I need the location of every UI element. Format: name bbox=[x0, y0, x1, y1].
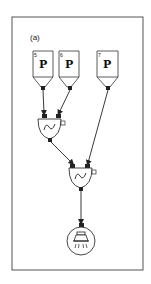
source-letter: P bbox=[39, 58, 47, 71]
mixer-handle bbox=[61, 121, 65, 125]
output-port[interactable] bbox=[68, 86, 72, 90]
diagram-canvas: (a) 5 P 6 P 7 P bbox=[0, 0, 151, 284]
light-output-node[interactable] bbox=[67, 227, 95, 255]
mixer-node-1[interactable] bbox=[38, 119, 65, 142]
source-letter: P bbox=[65, 58, 73, 71]
mixer-handle bbox=[92, 170, 96, 174]
input-port[interactable] bbox=[70, 164, 75, 168]
source-node-5[interactable]: 5 P bbox=[33, 51, 53, 90]
output-port[interactable] bbox=[48, 138, 52, 142]
connection-7-to-mixer-2 bbox=[88, 90, 108, 163]
panel-label: (a) bbox=[30, 33, 40, 42]
output-port[interactable] bbox=[106, 86, 110, 90]
connection-5-to-mixer-1 bbox=[43, 90, 44, 113]
source-node-7[interactable]: 7 P bbox=[97, 51, 118, 90]
input-port[interactable] bbox=[56, 114, 61, 118]
input-port[interactable] bbox=[42, 114, 47, 118]
source-node-6[interactable]: 6 P bbox=[59, 51, 79, 90]
source-number: 7 bbox=[98, 52, 101, 58]
mixer-node-2[interactable] bbox=[69, 168, 96, 191]
source-number: 6 bbox=[60, 52, 63, 58]
input-port[interactable] bbox=[79, 223, 84, 227]
output-port[interactable] bbox=[41, 86, 45, 90]
source-letter: P bbox=[103, 58, 111, 71]
output-port[interactable] bbox=[79, 187, 83, 191]
connection-6-to-mixer-1 bbox=[59, 90, 70, 113]
input-port[interactable] bbox=[85, 164, 90, 168]
source-number: 5 bbox=[34, 52, 37, 58]
connection-mixer-1-to-mixer-2 bbox=[51, 142, 72, 163]
